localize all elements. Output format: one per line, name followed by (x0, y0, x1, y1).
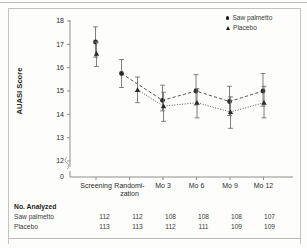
y-axis-tick-label: 14 (56, 111, 64, 118)
bottom-rule (8, 238, 301, 239)
circle-marker-icon (119, 71, 124, 76)
circle-marker-icon (160, 98, 165, 103)
y-axis-title: AUASI Score (15, 68, 24, 115)
legend-label-saw-palmetto: Saw palmetto (232, 13, 272, 23)
x-axis-tick-label-line2: zation (120, 190, 139, 197)
chart-legend: Saw palmetto Placebo (226, 13, 306, 33)
table-cell: 113 (88, 222, 121, 232)
table-cell: 108 (154, 212, 187, 222)
y-axis-tick-label: 15 (56, 87, 64, 94)
y-axis-zero-label: 0 (60, 173, 64, 180)
circle-marker-icon (261, 89, 266, 94)
table-row: Placebo113113112111109109 (14, 222, 286, 232)
table-cell: 109 (253, 222, 286, 232)
data-point-group (161, 92, 166, 121)
y-axis-tick-label: 16 (56, 64, 64, 71)
legend-item-saw-palmetto: Saw palmetto (226, 13, 306, 23)
legend-item-placebo: Placebo (226, 23, 306, 33)
y-axis-tick-label: 12 (56, 157, 64, 164)
axis-break-icon (65, 157, 69, 169)
circle-marker-icon (194, 89, 199, 94)
table-cell: 112 (88, 212, 121, 222)
figure-panel: 181716151413120AUASI ScoreScreeningRando… (0, 0, 307, 248)
no-analyzed-table: No. Analyzed Saw palmetto112112108108108… (14, 202, 300, 232)
series-line-placebo (138, 90, 264, 112)
data-point-group (119, 60, 124, 88)
triangle-marker-icon (194, 100, 199, 105)
data-point-group (135, 77, 140, 103)
y-axis-tick-label: 17 (56, 41, 64, 48)
x-axis-tick-label: Mo 12 (254, 182, 274, 189)
y-axis-tick-label: 13 (56, 134, 64, 141)
top-rule (0, 2, 307, 3)
auasi-score-line-chart: 181716151413120AUASI ScoreScreeningRando… (8, 9, 300, 199)
x-axis-tick-label: Mo 6 (189, 182, 205, 189)
table-cell: 111 (187, 222, 220, 232)
table-cell: 112 (121, 212, 154, 222)
table-cell: 109 (220, 222, 253, 232)
triangle-marker-icon (226, 26, 230, 30)
triangle-marker-icon (261, 100, 266, 105)
series-line-saw-palmetto (122, 74, 264, 102)
table-cell: 107 (253, 212, 286, 222)
x-axis-tick-label: Screening (80, 182, 112, 190)
data-point-group (94, 42, 99, 67)
table-row-label: Placebo (14, 222, 88, 232)
table-cell: 112 (154, 222, 187, 232)
table-row: Saw palmetto112112108108108107 (14, 212, 286, 222)
data-point-group (194, 75, 199, 105)
triangle-marker-icon (228, 109, 233, 114)
x-axis-tick-label: Mo 3 (155, 182, 171, 189)
legend-label-placebo: Placebo (233, 23, 257, 33)
x-axis-tick-label: Mo 9 (222, 182, 238, 189)
triangle-marker-icon (161, 104, 166, 109)
table-title: No. Analyzed (14, 202, 300, 212)
table-row-label: Saw palmetto (14, 212, 88, 222)
y-axis-tick-label: 18 (56, 17, 64, 24)
chart-plot-area: 181716151413120AUASI ScoreScreeningRando… (8, 9, 300, 199)
circle-marker-icon (227, 99, 232, 104)
counts-table: Saw palmetto112112108108108107Placebo113… (14, 212, 286, 232)
table-cell: 108 (187, 212, 220, 222)
table-cell: 113 (121, 222, 154, 232)
x-axis-tick-label: Randomi- (114, 182, 145, 189)
table-cell: 108 (220, 212, 253, 222)
circle-marker-icon (226, 16, 229, 19)
triangle-marker-icon (135, 87, 140, 92)
triangle-marker-icon (94, 51, 99, 56)
